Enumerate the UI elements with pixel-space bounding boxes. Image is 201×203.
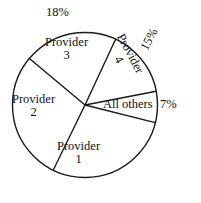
pie-chart-figure: Provider 3 Provider 2 Provider 1 Provide… xyxy=(0,0,201,203)
slice-label-provider-3-line2: 3 xyxy=(45,49,88,62)
slice-label-provider-1: Provider 1 xyxy=(57,140,100,166)
percent-label-all-others: 7% xyxy=(160,97,177,112)
slice-label-all-others-line1: All others xyxy=(103,97,153,111)
slice-label-provider-2-line2: 2 xyxy=(12,106,55,119)
slice-label-provider-3-line1: Provider xyxy=(45,35,88,49)
slice-label-provider-1-line2: 1 xyxy=(57,153,100,166)
slice-label-provider-2-line1: Provider xyxy=(12,92,55,106)
slice-label-all-others: All others xyxy=(103,98,153,111)
slice-label-provider-3: Provider 3 xyxy=(45,36,88,62)
percent-label-provider-3: 18% xyxy=(46,5,69,20)
slice-label-provider-2: Provider 2 xyxy=(12,93,55,119)
slice-label-provider-1-line1: Provider xyxy=(57,139,100,153)
